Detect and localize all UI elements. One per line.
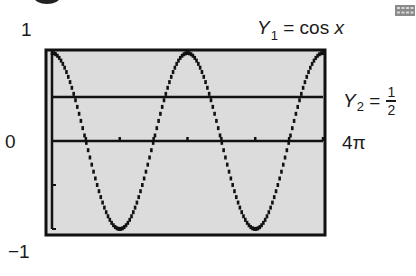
- screen-background: [46, 50, 325, 235]
- y1-subscript: 1: [271, 28, 278, 43]
- y1-rhs: = cos: [278, 17, 335, 38]
- y1-name: Y: [257, 17, 270, 38]
- x-max-label: 4π: [342, 133, 366, 152]
- y2-denominator: 2: [387, 103, 395, 117]
- y-zero-label: 0: [5, 132, 16, 151]
- y2-numerator: 1: [387, 85, 395, 99]
- y-max-label: 1: [21, 20, 32, 39]
- y1-variable: x: [334, 17, 344, 38]
- y-min-label: −1: [8, 242, 30, 261]
- y2-name: Y: [343, 91, 356, 110]
- y1-equation-label: Y1 = cos x: [257, 18, 344, 37]
- y2-equals: =: [364, 91, 380, 110]
- y2-equation-label: Y2 = 1 2: [343, 85, 396, 117]
- y2-subscript: 2: [357, 100, 364, 113]
- y2-fraction: 1 2: [386, 85, 396, 117]
